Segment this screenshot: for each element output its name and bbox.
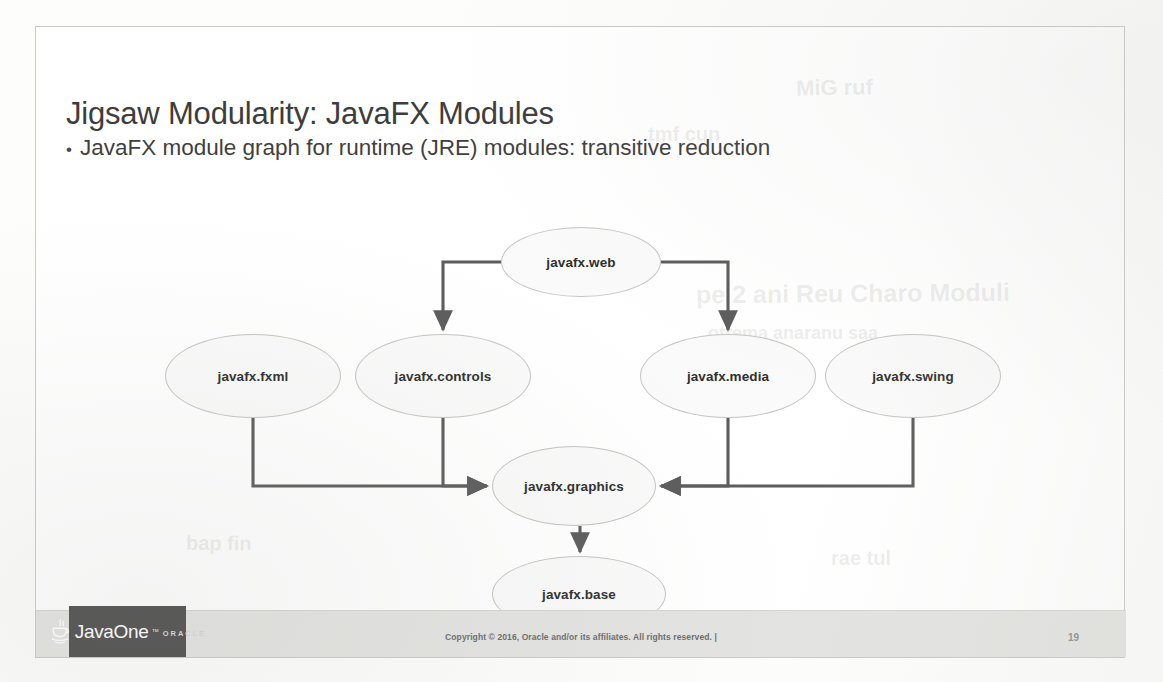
edge-swing-to-graphics (661, 418, 913, 486)
graph-node-label: javafx.swing (872, 369, 953, 384)
graph-node-javafx-swing[interactable]: javafx.swing (825, 334, 1001, 418)
graph-node-javafx-controls[interactable]: javafx.controls (355, 334, 531, 418)
graph-node-label: javafx.graphics (524, 479, 624, 494)
oracle-sublabel: ORACLE (163, 629, 207, 638)
graph-node-javafx-web[interactable]: javafx.web (501, 227, 661, 297)
slide-page-number: 19 (1068, 632, 1079, 643)
graph-node-label: javafx.media (687, 369, 769, 384)
edge-controls-to-graphics (443, 418, 487, 486)
javaone-wordmark: JavaOne (75, 621, 149, 643)
graph-node-label: javafx.web (546, 255, 615, 270)
edge-media-to-graphics (661, 418, 728, 486)
graph-node-javafx-fxml[interactable]: javafx.fxml (165, 334, 341, 418)
trademark-symbol: ™ (152, 628, 159, 635)
graph-node-label: javafx.controls (395, 369, 492, 384)
graph-node-javafx-media[interactable]: javafx.media (640, 334, 816, 418)
edge-web-to-controls (443, 262, 501, 330)
edge-fxml-to-graphics (253, 418, 487, 486)
graph-node-label: javafx.base (542, 587, 616, 602)
javaone-logo: JavaOne ™ ORACLE (69, 606, 186, 657)
graph-node-label: javafx.fxml (218, 369, 289, 384)
scanned-page-background: MiG ruftmf cunpe 2 ani Reu Charo Modulio… (0, 0, 1163, 682)
java-coffee-cup-icon (49, 618, 72, 645)
presentation-slide: MiG ruftmf cunpe 2 ani Reu Charo Modulio… (35, 26, 1125, 658)
edge-web-to-media (661, 262, 728, 330)
javafx-module-graph: javafx.webjavafx.fxmljavafx.controlsjava… (36, 27, 1126, 659)
graph-node-javafx-graphics[interactable]: javafx.graphics (492, 446, 656, 526)
